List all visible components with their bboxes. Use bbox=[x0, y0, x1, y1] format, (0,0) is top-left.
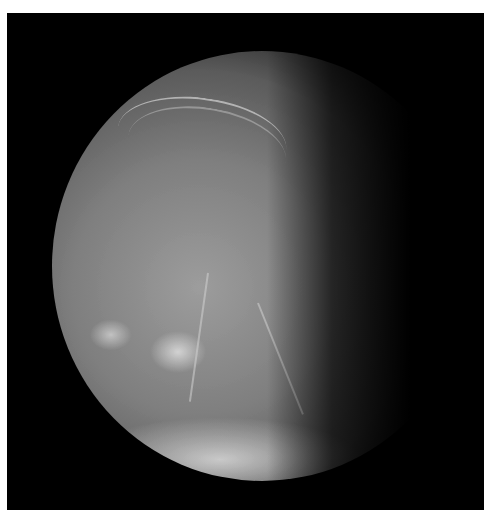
moon-photograph bbox=[7, 13, 484, 510]
terminator-shadow bbox=[267, 33, 484, 510]
